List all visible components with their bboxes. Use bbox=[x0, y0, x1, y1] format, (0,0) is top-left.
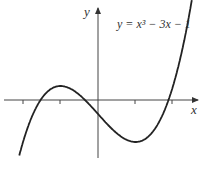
equation-label: y = x³ − 3x − 1 bbox=[117, 17, 191, 32]
chart: y x y = x³ − 3x − 1 bbox=[0, 0, 206, 171]
x-axis-label: x bbox=[191, 102, 197, 118]
y-axis-label: y bbox=[84, 4, 90, 20]
